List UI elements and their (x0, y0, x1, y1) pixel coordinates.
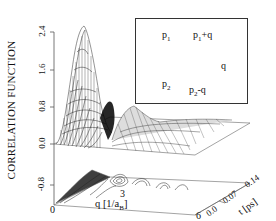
inset-label-p1-plus-q: p1+q (193, 29, 212, 43)
z-tick: 2.4 (37, 25, 47, 36)
z-axis-label: CORRELATION FUNCTION (2, 25, 20, 195)
p1q-end: +q (202, 29, 213, 40)
z-tick: 0.8 (37, 100, 47, 111)
x-tick: 0 (50, 204, 55, 215)
z-tick: 1.6 (37, 63, 47, 74)
inset-label-p1: p1 (162, 29, 171, 43)
x-tick: 6 (196, 210, 201, 221)
z-tick: 0.0 (37, 137, 47, 148)
figure: CORRELATION FUNCTION 2.4 1.6 0.8 0.0 -0.… (0, 0, 276, 221)
p2q-end: -q (198, 84, 206, 95)
x-axis-label: q [1/aB] (95, 198, 127, 212)
inset-label-p2: p2 (162, 78, 171, 92)
inset-label-p2-minus-q: p2-q (189, 84, 206, 98)
x-label-main: q [1/a (95, 198, 119, 209)
x-label-end: ] (124, 198, 128, 209)
p2-sub: 2 (167, 84, 171, 92)
p1-sub: 1 (167, 35, 171, 43)
z-tick: -0.8 (36, 177, 46, 191)
inset-label-q: q (221, 60, 226, 71)
z-axis-label-text: CORRELATION FUNCTION (5, 41, 17, 180)
